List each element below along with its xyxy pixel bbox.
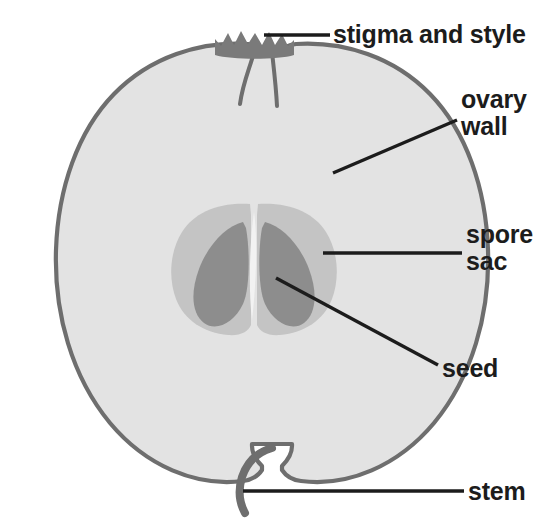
diagram-canvas [0,0,546,531]
label-stem: stem [468,478,526,505]
label-seed: seed [442,355,498,382]
label-spore-sac: spore sac [466,221,533,274]
apple-cross-section-diagram: stigma and style ovary wall spore sac se… [0,0,546,531]
label-ovary-wall: ovary wall [461,86,527,139]
label-stigma-and-style: stigma and style [333,21,526,48]
